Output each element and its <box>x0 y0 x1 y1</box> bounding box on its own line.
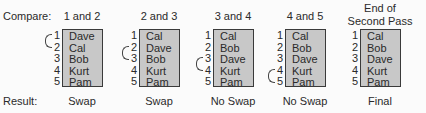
list-item: Pam <box>146 77 169 89</box>
position-number: 5 <box>50 76 60 88</box>
position-number: 1 <box>348 30 358 42</box>
list-item: Pam <box>220 77 243 89</box>
list-item: Pam <box>69 77 92 89</box>
position-number: 1 <box>127 30 137 42</box>
position-number: 5 <box>273 76 283 88</box>
list-item: Cal <box>220 31 237 43</box>
position-number: 1 <box>201 30 211 42</box>
list-item: Cal <box>146 31 163 43</box>
header-line-1: End of <box>340 2 420 15</box>
list-item: Dave <box>69 31 95 43</box>
position-number: 1 <box>273 30 283 42</box>
step-4-result: No Swap <box>265 95 345 107</box>
step-1-list-box: Dave Cal Bob Kurt Pam <box>62 29 103 87</box>
position-number: 3 <box>127 53 137 65</box>
step-3-result: No Swap <box>193 95 273 107</box>
list-item: Bob <box>69 54 89 66</box>
step-4-list-box: Cal Bob Dave Kurt Pam <box>285 29 326 87</box>
step-3-list-box: Cal Bob Dave Kurt Pam <box>213 29 254 87</box>
step-3-header: 3 and 4 <box>193 10 273 23</box>
list-item: Dave <box>367 54 393 66</box>
step-1-header: 1 and 2 <box>42 10 122 23</box>
result-label: Result: <box>3 95 37 107</box>
list-item: Pam <box>367 77 390 89</box>
step-2-result: Swap <box>119 95 199 107</box>
list-item: Cal <box>367 31 384 43</box>
position-number: 5 <box>348 76 358 88</box>
step-2-header: 2 and 3 <box>119 10 199 23</box>
step-4-header: 4 and 5 <box>265 10 345 23</box>
step-5-result: Final <box>340 95 420 107</box>
position-number: 3 <box>50 53 60 65</box>
step-5-list-box: Cal Bob Dave Kurt Pam <box>360 29 401 87</box>
position-number: 3 <box>201 53 211 65</box>
list-item: Bob <box>146 54 166 66</box>
step-5-header: End of Second Pass <box>340 2 420 28</box>
position-number: 1 <box>50 30 60 42</box>
step-1-result: Swap <box>42 95 122 107</box>
header-line-2: Second Pass <box>340 15 420 28</box>
position-number: 3 <box>348 53 358 65</box>
position-number: 3 <box>273 53 283 65</box>
list-item: Pam <box>292 77 315 89</box>
position-number: 5 <box>127 76 137 88</box>
list-item: Dave <box>292 54 318 66</box>
list-item: Cal <box>292 31 309 43</box>
step-2-list-box: Cal Dave Bob Kurt Pam <box>139 29 180 87</box>
list-item: Dave <box>220 54 246 66</box>
position-number: 5 <box>201 76 211 88</box>
